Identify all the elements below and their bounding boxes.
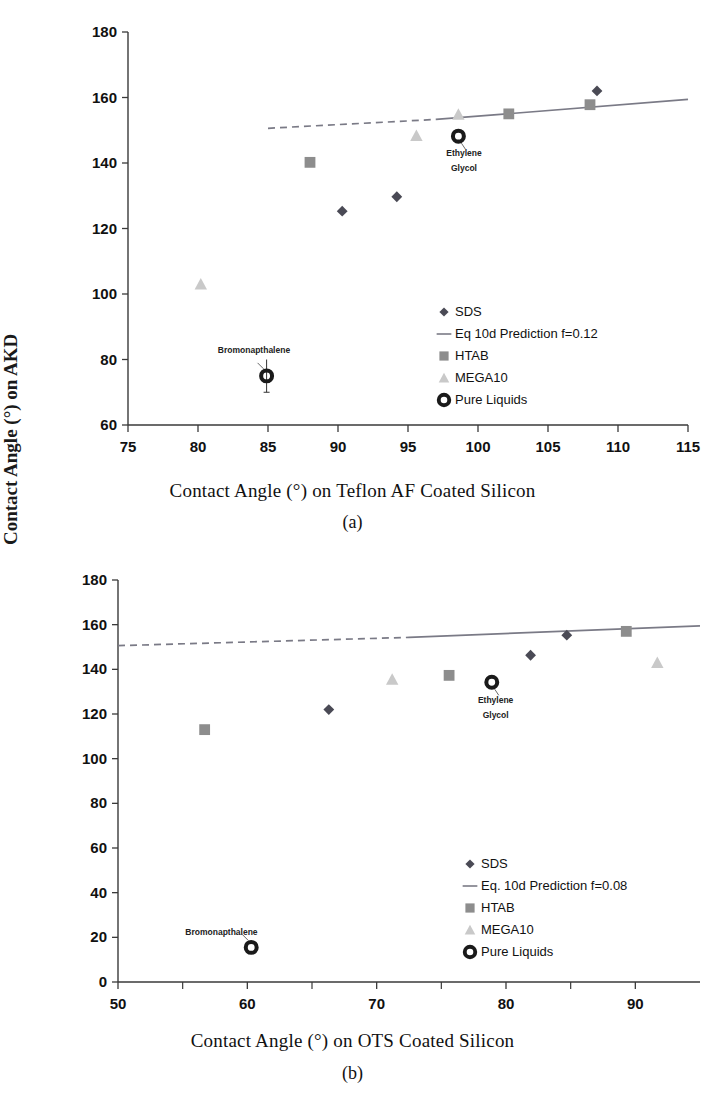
legend-label: MEGA10 xyxy=(481,922,534,937)
data-point-pure-liquids-open-circle-marker xyxy=(246,942,257,953)
x-tick-label: 50 xyxy=(110,995,127,1012)
y-tick-label: 20 xyxy=(90,928,107,945)
legend-label: HTAB xyxy=(455,348,489,363)
prediction-line-dashed xyxy=(268,119,436,128)
y-tick-label: 100 xyxy=(82,750,107,767)
y-tick-label: 180 xyxy=(82,571,107,588)
annotation-label: Ethylene xyxy=(478,695,514,705)
y-tick-label: 0 xyxy=(99,973,107,990)
data-point-mega10-triangle-marker xyxy=(195,278,207,289)
data-point-htab-square-marker xyxy=(199,724,210,735)
annotation-label: Ethylene xyxy=(446,148,482,158)
x-tick-label: 105 xyxy=(535,438,560,455)
axes: 6080100120140160180758085909510010511011… xyxy=(92,23,700,455)
x-tick-label: 75 xyxy=(120,438,137,455)
x-tick-label: 115 xyxy=(676,438,700,455)
y-tick-label: 120 xyxy=(82,705,107,722)
data-point-htab-square-marker xyxy=(503,108,514,119)
data-point-sds-diamond-marker xyxy=(323,704,334,715)
data-point-sds-diamond-marker xyxy=(592,86,603,97)
legend-sds-diamond-marker xyxy=(465,859,474,868)
legend-sds-diamond-marker xyxy=(439,307,448,316)
annotation-label: Glycol xyxy=(483,710,509,720)
annotation-label: Bromonapthalene xyxy=(218,345,291,355)
data-point-mega10-triangle-marker xyxy=(410,130,422,141)
legend-htab-square-marker xyxy=(465,903,474,912)
data-point-htab-square-marker xyxy=(305,157,316,168)
y-tick-label: 140 xyxy=(92,154,117,171)
plot-area-a: 6080100120140160180758085909510010511011… xyxy=(0,0,705,470)
x-axis-title-b: Contact Angle (°) on OTS Coated Silicon xyxy=(0,1030,705,1052)
scatter-plot-b: 0204060801001201401601805060708090Bromon… xyxy=(0,545,705,1020)
legend-htab-square-marker xyxy=(439,351,448,360)
legend-label: SDS xyxy=(455,304,482,319)
y-axis-title-b: Contact Angle (°) on AKD xyxy=(0,0,22,545)
series-mega10 xyxy=(386,656,664,684)
x-tick-label: 110 xyxy=(606,438,630,455)
legend-pure-liquids-open-circle-marker xyxy=(465,947,476,958)
series-mega10 xyxy=(195,108,465,289)
y-tick-label: 100 xyxy=(92,285,117,302)
annotations: BromonapthaleneEthyleneGlycol xyxy=(218,143,482,369)
panel-caption-b: (b) xyxy=(0,1063,705,1084)
prediction-line-solid xyxy=(436,99,688,119)
y-tick-label: 160 xyxy=(92,89,117,106)
y-tick-label: 40 xyxy=(90,884,107,901)
prediction-line-solid xyxy=(409,626,700,638)
legend: SDSEq 10d Prediction f=0.12HTABMEGA10Pur… xyxy=(437,304,598,407)
y-tick-label: 60 xyxy=(100,416,117,433)
legend: SDSEq. 10d Prediction f=0.08HTABMEGA10Pu… xyxy=(463,856,628,959)
annotation-label: Bromonapthalene xyxy=(185,927,258,937)
x-tick-label: 100 xyxy=(465,438,490,455)
prediction-line-group xyxy=(268,99,688,128)
prediction-line-dashed xyxy=(118,637,409,645)
data-point-sds-diamond-marker xyxy=(525,650,536,661)
data-point-sds-diamond-marker xyxy=(337,206,348,217)
legend-label: SDS xyxy=(481,856,508,871)
data-point-pure-liquids-open-circle-marker xyxy=(453,131,464,142)
legend-mega10-triangle-marker xyxy=(439,373,450,383)
legend-pure-liquids-open-circle-marker xyxy=(439,395,450,406)
x-tick-label: 85 xyxy=(260,438,277,455)
x-tick-label: 80 xyxy=(498,995,515,1012)
scatter-plot-a: 6080100120140160180758085909510010511011… xyxy=(0,0,705,470)
figure-page: 6080100120140160180758085909510010511011… xyxy=(0,0,705,1101)
x-tick-label: 80 xyxy=(190,438,207,455)
panel-caption-a: (a) xyxy=(0,512,705,533)
x-axis-title-a: Contact Angle (°) on Teflon AF Coated Si… xyxy=(0,480,705,502)
y-tick-label: 120 xyxy=(92,220,117,237)
annotation-label: Glycol xyxy=(451,163,477,173)
y-tick-label: 140 xyxy=(82,660,107,677)
annotations: BromonapthaleneEthyleneGlycol xyxy=(185,689,513,940)
y-tick-label: 60 xyxy=(90,839,107,856)
data-point-htab-square-marker xyxy=(621,626,632,637)
legend-mega10-triangle-marker xyxy=(465,925,476,935)
plot-area-b: 0204060801001201401601805060708090Bromon… xyxy=(0,545,705,1020)
legend-label: Eq 10d Prediction f=0.12 xyxy=(455,326,598,341)
series-pure-liquids xyxy=(246,677,497,953)
data-point-htab-square-marker xyxy=(585,99,596,110)
x-tick-label: 90 xyxy=(627,995,644,1012)
y-tick-label: 180 xyxy=(92,23,117,40)
data-point-htab-square-marker xyxy=(444,670,455,681)
chart-panel-a: 6080100120140160180758085909510010511011… xyxy=(0,0,705,545)
data-point-mega10-triangle-marker xyxy=(651,656,663,667)
y-tick-label: 160 xyxy=(82,616,107,633)
x-tick-label: 60 xyxy=(239,995,256,1012)
x-tick-label: 70 xyxy=(368,995,385,1012)
axes: 0204060801001201401601805060708090 xyxy=(82,571,700,1012)
y-tick-label: 80 xyxy=(100,351,117,368)
annotation-leader-line xyxy=(258,363,264,369)
legend-label: MEGA10 xyxy=(455,370,508,385)
series-pure-liquids xyxy=(261,131,464,393)
x-tick-label: 95 xyxy=(400,438,417,455)
chart-panel-b: 0204060801001201401601805060708090Bromon… xyxy=(0,545,705,1101)
legend-label: Eq. 10d Prediction f=0.08 xyxy=(481,878,627,893)
x-tick-label: 90 xyxy=(330,438,347,455)
legend-label: HTAB xyxy=(481,900,515,915)
legend-label: Pure Liquids xyxy=(455,392,528,407)
legend-label: Pure Liquids xyxy=(481,944,554,959)
y-tick-label: 80 xyxy=(90,794,107,811)
data-point-mega10-triangle-marker xyxy=(386,673,398,684)
data-point-sds-diamond-marker xyxy=(391,191,402,202)
